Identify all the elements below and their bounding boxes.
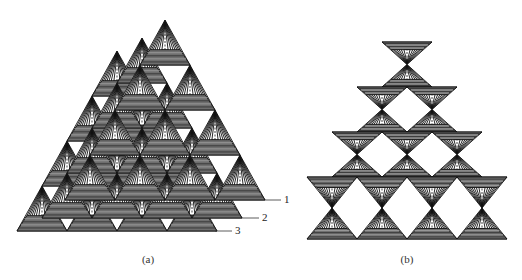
layer-label-2: 2 <box>262 211 268 223</box>
upright-triangle <box>432 155 482 178</box>
hourglass-unit <box>432 132 482 177</box>
upright-triangle <box>307 208 357 239</box>
hourglass-unit <box>357 87 407 132</box>
inverted-triangle <box>382 42 432 65</box>
upright-triangle <box>382 65 432 88</box>
triangle-unit <box>165 65 215 110</box>
upright-triangle <box>407 110 457 133</box>
inverted-triangle <box>307 177 357 208</box>
hourglass-unit <box>457 177 507 239</box>
inverted-triangle <box>407 87 457 110</box>
hourglass-unit <box>407 87 457 132</box>
hourglass-unit <box>382 42 432 87</box>
panel-a-stacked-layers <box>17 20 265 231</box>
inverted-triangle <box>407 177 457 208</box>
inverted-triangle <box>382 132 432 155</box>
triangle-unit <box>140 20 190 65</box>
upright-triangle <box>382 155 432 178</box>
inverted-triangle <box>457 177 507 208</box>
upright-triangle <box>457 208 507 239</box>
hourglass-unit <box>357 177 407 239</box>
caption-b: (b) <box>401 253 414 265</box>
upright-triangle <box>407 208 457 239</box>
upright-triangle <box>357 208 407 239</box>
inverted-triangle <box>357 177 407 208</box>
caption-a: (a) <box>142 253 154 265</box>
hourglass-unit <box>407 177 457 239</box>
triangle-unit <box>215 155 265 200</box>
hourglass-unit <box>332 132 382 177</box>
hourglass-unit <box>307 177 357 239</box>
triangle-unit <box>190 110 240 155</box>
figure-canvas <box>0 0 522 280</box>
inverted-triangle <box>357 87 407 110</box>
upright-triangle <box>332 155 382 178</box>
inverted-triangle <box>432 132 482 155</box>
hourglass-unit <box>382 132 432 177</box>
layer-label-1: 1 <box>284 193 290 205</box>
inverted-triangle <box>332 132 382 155</box>
upright-triangle <box>357 110 407 133</box>
panel-b-hourglass-pyramid <box>307 42 507 239</box>
layer-label-3: 3 <box>235 224 241 236</box>
